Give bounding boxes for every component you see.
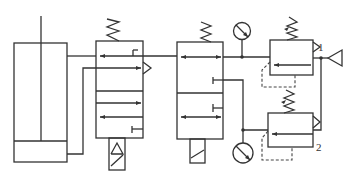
adjustable-spring-icon: [287, 17, 297, 40]
air-source-icon: [328, 50, 342, 66]
valve-1: [96, 19, 151, 170]
exhaust-icon: [143, 62, 151, 74]
arrow-left-icon: [274, 63, 279, 67]
regulator-2-label: 2: [316, 141, 322, 153]
arrow-left-icon: [181, 55, 186, 59]
spring-icon: [201, 22, 211, 42]
adjustable-spring-icon: [284, 90, 294, 113]
arrow-left-icon: [100, 54, 105, 58]
valve-2: [177, 22, 223, 163]
gauge-2: [233, 143, 253, 163]
cylinder-pipes: [67, 56, 96, 154]
supply-line-1: [223, 40, 270, 59]
supply-line-2: [223, 80, 268, 143]
arrow-left-icon: [100, 115, 105, 119]
regulator-1-label: 1: [318, 41, 324, 53]
pneumatic-circuit-diagram: 1 2: [0, 0, 352, 182]
arrow-right-icon: [136, 101, 141, 105]
arrow-right-icon: [136, 66, 141, 70]
arrow-right-icon: [216, 55, 221, 59]
regulator-1: 1: [262, 17, 324, 87]
gauge-1: [234, 23, 251, 40]
relief-port-icon: [313, 116, 320, 128]
arrow-left-icon: [181, 115, 186, 119]
arrow-left-icon: [272, 132, 277, 136]
supply-bus: [313, 56, 328, 130]
spring-icon: [107, 19, 119, 41]
cylinder: [14, 16, 67, 162]
arrow-right-icon: [216, 115, 221, 119]
regulator-2: 2: [262, 90, 322, 160]
